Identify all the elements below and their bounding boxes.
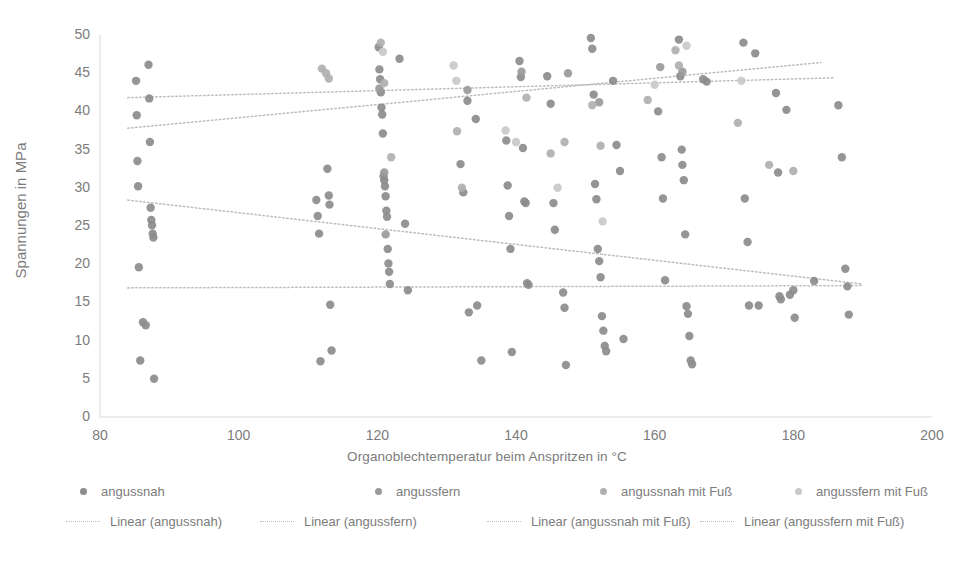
- legend-line-item-1[interactable]: Linear (angussfern): [260, 508, 417, 534]
- series-0: [132, 34, 853, 383]
- data-point: [146, 203, 154, 211]
- plot-area: [0, 0, 974, 470]
- chart-legend: angussnahangussfernangussnah mit Fußangu…: [0, 478, 974, 556]
- data-point: [384, 259, 392, 267]
- data-point: [782, 106, 790, 114]
- data-point: [675, 61, 683, 69]
- data-point: [739, 38, 747, 46]
- data-point: [681, 230, 689, 238]
- data-point: [401, 220, 409, 228]
- data-point: [685, 332, 693, 340]
- data-point: [381, 230, 389, 238]
- data-point: [473, 301, 481, 309]
- data-point: [546, 100, 554, 108]
- data-point: [314, 212, 322, 220]
- data-point: [146, 138, 154, 146]
- data-point: [791, 313, 799, 321]
- data-point: [387, 153, 395, 161]
- data-point: [395, 54, 403, 62]
- data-point: [772, 89, 780, 97]
- legend-line-item-2[interactable]: Linear (angussnah mit Fuß): [487, 508, 691, 534]
- data-point: [512, 138, 520, 146]
- data-point: [149, 233, 157, 241]
- chart-container: Spannungen in MPa 05101520253035404550 8…: [0, 0, 974, 562]
- data-point: [838, 153, 846, 161]
- legend-marker-item-0[interactable]: angussnah: [80, 478, 165, 504]
- data-point: [375, 65, 383, 73]
- data-point: [560, 304, 568, 312]
- axis-lines: [100, 35, 932, 417]
- data-point: [843, 282, 851, 290]
- data-point: [515, 57, 523, 65]
- data-point: [741, 194, 749, 202]
- data-point: [678, 145, 686, 153]
- data-point: [503, 181, 511, 189]
- data-point: [386, 280, 394, 288]
- legend-marker-item-2[interactable]: angussnah mit Fuß: [600, 478, 732, 504]
- legend-line-item-3[interactable]: Linear (angussfern mit Fuß): [700, 508, 904, 534]
- data-point: [754, 301, 762, 309]
- legend-dot-icon: [600, 488, 607, 495]
- data-point: [588, 101, 596, 109]
- legend-line-label: Linear (angussnah mit Fuß): [531, 515, 691, 528]
- data-point: [596, 273, 604, 281]
- data-point: [380, 79, 388, 87]
- legend-marker-item-3[interactable]: angussfern mit Fuß: [795, 478, 928, 504]
- legend-marker-item-1[interactable]: angussfern: [375, 478, 460, 504]
- data-point: [734, 119, 742, 127]
- data-point: [323, 165, 331, 173]
- data-point: [135, 263, 143, 271]
- data-point: [150, 375, 158, 383]
- data-point: [136, 356, 144, 364]
- trendline-0: [128, 200, 863, 284]
- data-point: [774, 168, 782, 176]
- data-point: [688, 360, 696, 368]
- data-point: [458, 184, 466, 192]
- data-point: [810, 277, 818, 285]
- data-point: [377, 38, 385, 46]
- legend-marker-label: angussnah: [101, 485, 165, 498]
- data-point: [522, 199, 530, 207]
- legend-dotted-line-icon: [66, 521, 100, 522]
- data-point: [745, 301, 753, 309]
- data-point: [671, 46, 679, 54]
- data-point: [134, 182, 142, 190]
- data-point: [380, 168, 388, 176]
- data-point: [682, 41, 690, 49]
- data-point: [142, 321, 150, 329]
- trendline-2: [128, 286, 863, 288]
- data-point: [384, 245, 392, 253]
- data-point: [381, 182, 389, 190]
- legend-marker-label: angussfern: [396, 485, 460, 498]
- data-point: [148, 221, 156, 229]
- data-point: [463, 97, 471, 105]
- data-point: [564, 69, 572, 77]
- data-point: [551, 226, 559, 234]
- data-point: [549, 199, 557, 207]
- data-point: [595, 257, 603, 265]
- data-point: [559, 288, 567, 296]
- data-point: [737, 77, 745, 85]
- series-2: [318, 38, 798, 192]
- data-point: [327, 346, 335, 354]
- data-point: [465, 308, 473, 316]
- data-point: [132, 77, 140, 85]
- data-point: [619, 335, 627, 343]
- data-point: [841, 265, 849, 273]
- data-point: [145, 94, 153, 102]
- legend-line-label: Linear (angussfern mit Fuß): [744, 515, 904, 528]
- legend-line-item-0[interactable]: Linear (angussnah): [66, 508, 222, 534]
- data-point: [612, 141, 620, 149]
- legend-row-markers: angussnahangussfernangussnah mit Fußangu…: [0, 478, 974, 504]
- data-point: [383, 213, 391, 221]
- legend-marker-label: angussnah mit Fuß: [621, 485, 732, 498]
- data-point: [599, 326, 607, 334]
- data-point: [508, 348, 516, 356]
- legend-dotted-line-icon: [487, 521, 521, 522]
- data-point: [381, 192, 389, 200]
- data-point: [325, 74, 333, 82]
- data-point: [379, 48, 387, 56]
- data-point: [845, 310, 853, 318]
- data-point: [654, 107, 662, 115]
- data-point: [657, 153, 665, 161]
